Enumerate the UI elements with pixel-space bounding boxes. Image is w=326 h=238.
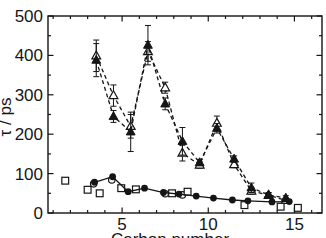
axis-ticks xyxy=(48,16,322,213)
chart-canvas: τ / ps 510150100200300400500 xyxy=(0,0,326,238)
y-tick-label: 100 xyxy=(15,165,43,184)
plot-frame xyxy=(48,16,322,213)
y-tick-label: 300 xyxy=(15,86,43,105)
y-tick-label: 500 xyxy=(15,7,43,26)
chart-figure: τ / ps 510150100200300400500 Carbon numb… xyxy=(0,0,326,238)
y-axis-label: τ / ps xyxy=(0,98,15,137)
series-open-triangle-dashed xyxy=(92,40,290,203)
y-tick-label: 400 xyxy=(15,46,43,65)
tick-labels: 510150100200300400500 xyxy=(15,7,304,234)
x-axis-label: Carbon number xyxy=(111,230,229,238)
y-tick-label: 200 xyxy=(15,125,43,144)
x-tick-label: 15 xyxy=(285,215,304,234)
y-tick-label: 0 xyxy=(34,204,43,223)
series-filled-triangle-dashed xyxy=(92,25,290,201)
